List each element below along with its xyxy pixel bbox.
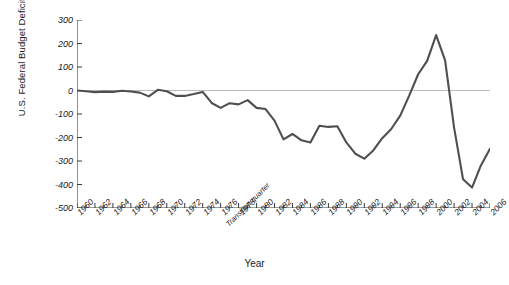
- axis-ticks-group: [77, 20, 490, 208]
- y-tick-label: 100: [39, 62, 73, 72]
- data-series-group: [77, 35, 490, 188]
- x-axis-title: Year: [0, 258, 509, 269]
- y-tick-label: 200: [39, 39, 73, 49]
- plot-area: [77, 20, 490, 208]
- y-tick-label: -200: [39, 133, 73, 143]
- y-axis-tick-labels: 3002001000-100-200-300-400-500: [39, 20, 73, 208]
- x-axis-tick-labels: 1960196219641966196819701972197419761978…: [77, 210, 490, 280]
- x-tick-label: 2006: [488, 197, 508, 217]
- y-tick-label: -300: [39, 156, 73, 166]
- y-axis-title: U.S. Federal Budget Deficits (billion do…: [16, 0, 36, 120]
- chart-figure: U.S. Federal Budget Deficits (billion do…: [0, 0, 509, 285]
- y-tick-label: -100: [39, 109, 73, 119]
- axis-lines-group: [77, 20, 490, 208]
- y-tick-label: -400: [39, 180, 73, 190]
- y-tick-label: -500: [39, 203, 73, 213]
- y-tick-label: 0: [39, 86, 73, 96]
- chart-svg: [77, 20, 490, 208]
- y-tick-label: 300: [39, 15, 73, 25]
- series-line: [77, 35, 490, 188]
